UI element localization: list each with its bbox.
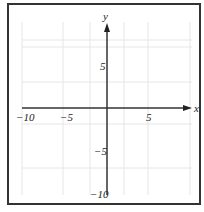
x-tick-label: −5	[60, 111, 73, 123]
x-tick-label: 5	[146, 111, 152, 123]
y-tick-label: −5	[94, 145, 107, 157]
y-tick-label: −10	[90, 188, 109, 200]
y-tick-label: 5	[100, 60, 106, 72]
y-axis-arrow-icon	[104, 23, 110, 32]
x-axis-arrow-icon	[183, 105, 192, 111]
x-axis-label: x	[193, 102, 199, 114]
y-axis-label: y	[102, 10, 108, 22]
coordinate-plane: x y −10 −5 5 5 −5 −10	[0, 0, 204, 212]
x-tick-label: −10	[16, 111, 35, 123]
